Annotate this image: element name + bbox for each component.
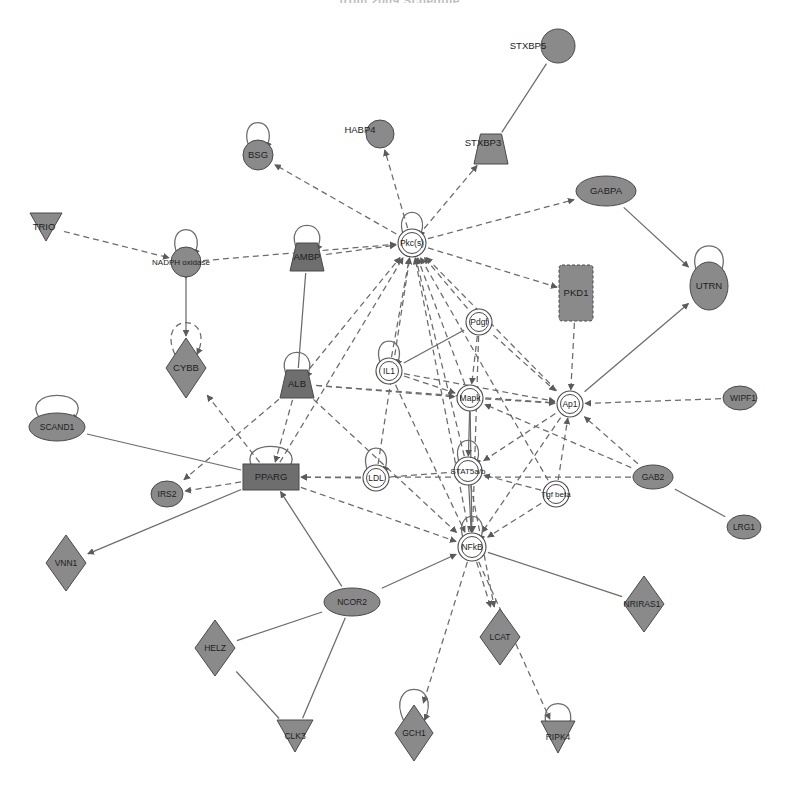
network-node[interactable]: LCAT [480,609,520,665]
edge[interactable] [675,489,725,517]
node-shape [398,229,426,257]
edge[interactable] [484,414,556,461]
node-shape [474,134,508,164]
network-node[interactable]: Mapk [457,385,483,411]
edge[interactable] [428,200,574,239]
network-node[interactable]: IRS2 [151,481,183,507]
edge[interactable] [468,412,469,456]
edge[interactable] [502,64,547,133]
edge[interactable] [485,404,631,467]
network-node[interactable]: NRIRAS1 [624,576,664,632]
edge[interactable] [301,477,361,478]
network-node[interactable]: UTRN [690,246,728,310]
network-node[interactable]: CLK3 [277,720,313,752]
node-shape [557,391,583,417]
network-node[interactable]: HABP4 [344,120,394,148]
network-node[interactable]: NCOR2 [324,588,380,616]
edge[interactable] [421,258,549,481]
network-node[interactable]: BSG [243,123,273,170]
node-layer: STXBP5HABP4BSGSTXBP3GABPATRIONADPH oxida… [29,29,761,761]
edge[interactable] [416,258,465,456]
edge[interactable] [472,336,478,384]
network-node[interactable]: RIPK4 [541,704,575,753]
node-shape [324,588,380,616]
network-node[interactable]: IL1 [376,341,402,384]
node-shape [624,576,664,632]
edge[interactable] [428,248,557,287]
network-node[interactable]: ALB [280,352,314,398]
edge[interactable] [494,335,556,391]
node-shape [541,29,575,63]
node-shape [543,481,569,507]
network-node[interactable]: AMBP [290,225,324,271]
network-node[interactable]: Pdgf [466,309,492,335]
network-canvas: from 2009 Schedule STXBP5HABP4BSGSTXBP3G… [0,0,799,786]
edge[interactable] [301,487,456,541]
network-node[interactable]: VNN1 [46,535,86,591]
edge[interactable] [473,336,479,532]
network-graph: STXBP5HABP4BSGSTXBP3GABPATRIONADPH oxida… [0,0,799,786]
page-title: from 2009 Schedule [0,0,799,3]
network-node[interactable]: Ap1 [557,391,583,417]
node-shape [633,465,673,489]
network-node[interactable]: LDL [363,448,389,491]
edge[interactable] [585,303,689,391]
edge[interactable] [237,612,322,641]
edge[interactable] [185,482,241,491]
edge[interactable] [558,418,568,480]
node-shape [243,140,273,170]
node-shape [151,481,183,507]
edge[interactable] [64,232,169,258]
node-shape [559,265,593,321]
network-node[interactable]: LRG1 [727,515,761,539]
network-node[interactable]: NADPH oxidase [152,230,210,277]
edge[interactable] [488,552,622,596]
network-node[interactable]: GABPA [576,176,636,206]
node-shape [366,120,394,148]
node-shape [458,533,486,561]
network-node[interactable]: STXBP3 [465,134,508,164]
node-shape [454,457,482,485]
edge[interactable] [316,386,455,397]
edge[interactable] [207,395,259,462]
edge[interactable] [382,554,456,588]
network-node[interactable]: STXBP5 [510,29,575,63]
network-node[interactable]: TRIO [30,213,62,241]
network-node[interactable]: HELZ [195,620,235,676]
network-node[interactable]: PKD1 [559,265,593,321]
node-shape [723,386,757,410]
edge[interactable] [585,417,638,464]
network-node[interactable]: GAB2 [633,465,673,489]
edge[interactable] [275,165,397,234]
node-shape [30,213,62,241]
edge-layer [64,64,725,720]
node-shape [363,465,389,491]
edge[interactable] [391,472,452,477]
edge[interactable] [303,618,346,718]
edge[interactable] [424,166,477,229]
edge[interactable] [624,207,689,267]
network-node[interactable]: Tgf beta [541,481,571,507]
node-shape [466,309,492,335]
network-node[interactable]: GCH1 [395,689,433,761]
node-shape [480,609,520,665]
node-shape [46,535,86,591]
edge[interactable] [87,434,241,470]
edge[interactable] [236,672,279,719]
edge[interactable] [585,399,721,404]
node-shape [541,721,575,753]
edge[interactable] [571,323,575,390]
network-node[interactable]: SCAND1 [29,395,85,441]
node-shape [290,243,324,271]
edge[interactable] [488,503,542,537]
node-shape [690,262,728,310]
edge[interactable] [310,258,400,369]
node-shape [277,720,313,752]
network-node[interactable]: Pkc(s) [398,212,426,257]
network-node[interactable]: WIPF1 [723,386,757,410]
edge[interactable] [424,258,467,309]
edge[interactable] [423,562,467,703]
node-shape [243,464,299,490]
edge[interactable] [281,492,342,587]
node-shape [457,385,483,411]
